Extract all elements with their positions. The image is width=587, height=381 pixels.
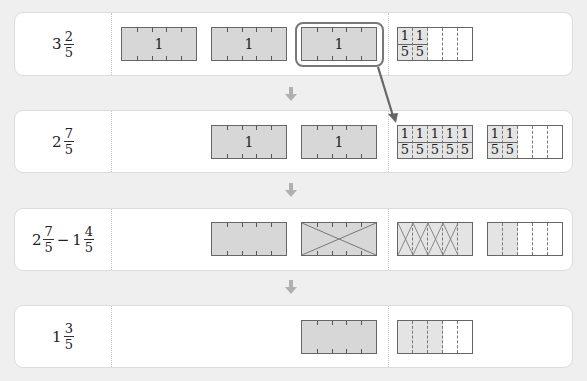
down-arrow-icon	[284, 86, 298, 102]
down-arrow-icon	[284, 279, 298, 295]
down-arrow-icon	[284, 182, 298, 198]
